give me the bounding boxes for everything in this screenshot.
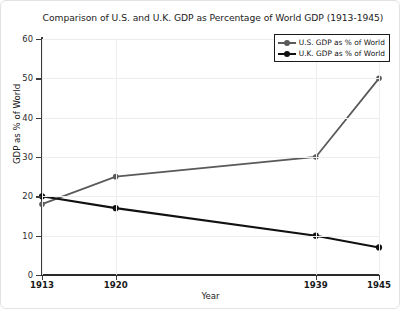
legend-label-us: U.S. GDP as % of World — [299, 38, 385, 47]
legend-label-uk: U.K. GDP as % of World — [299, 49, 385, 58]
chart-title: Comparison of U.S. and U.K. GDP as Perce… — [35, 12, 391, 23]
y-tick-label: 50 — [9, 73, 33, 83]
y-tick-mark — [36, 196, 41, 197]
x-tick-label: 1920 — [91, 280, 141, 290]
gridline-vertical — [379, 39, 380, 275]
chart-legend: U.S. GDP as % of World U.K. GDP as % of … — [274, 34, 390, 62]
y-tick-mark — [36, 275, 41, 276]
gridline-vertical — [316, 39, 317, 275]
legend-item-uk: U.K. GDP as % of World — [278, 48, 385, 59]
y-tick-mark — [36, 118, 41, 119]
series-line — [42, 78, 379, 204]
y-tick-label: 10 — [9, 231, 33, 241]
gridline-horizontal — [42, 157, 379, 158]
legend-marker-uk-icon — [278, 49, 296, 58]
chart-figure: Comparison of U.S. and U.K. GDP as Perce… — [0, 0, 400, 309]
gridline-vertical — [116, 39, 117, 275]
x-tick-label: 1913 — [17, 280, 67, 290]
y-tick-label: 20 — [9, 191, 33, 201]
plot-area — [42, 39, 379, 275]
legend-marker-us-icon — [278, 38, 296, 47]
x-tick-label: 1945 — [354, 280, 400, 290]
y-tick-mark — [36, 236, 41, 237]
y-tick-label: 0 — [9, 270, 33, 280]
gridline-horizontal — [42, 118, 379, 119]
y-tick-mark — [36, 78, 41, 79]
series-line — [42, 196, 379, 247]
gridline-vertical — [42, 39, 43, 275]
gridline-horizontal — [42, 196, 379, 197]
y-tick-mark — [36, 157, 41, 158]
y-tick-label: 30 — [9, 152, 33, 162]
y-tick-label: 60 — [9, 34, 33, 44]
legend-item-us: U.S. GDP as % of World — [278, 37, 385, 48]
y-tick-mark — [36, 39, 41, 40]
x-tick-label: 1939 — [291, 280, 341, 290]
y-tick-label: 40 — [9, 113, 33, 123]
gridline-horizontal — [42, 236, 379, 237]
x-axis-label: Year — [42, 291, 379, 301]
gridline-horizontal — [42, 78, 379, 79]
